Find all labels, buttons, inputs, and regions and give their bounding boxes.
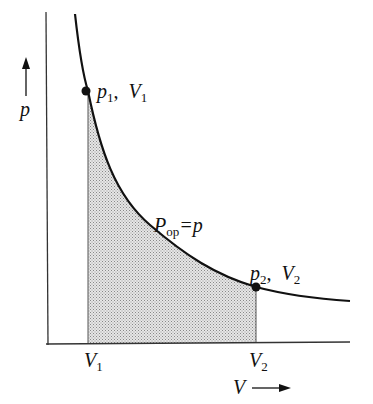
x-tick-v2: V2	[249, 349, 268, 375]
point2-label: p2, V2	[250, 262, 300, 288]
point-1	[82, 87, 91, 96]
curve-label: Pop=p	[154, 214, 203, 240]
x-tick-v1: V1	[84, 349, 103, 375]
y-axis-label: p	[20, 98, 30, 121]
x-axis-label: V	[233, 376, 245, 399]
pv-diagram	[0, 0, 373, 404]
point1-label: p1, V1	[97, 80, 147, 106]
y-axis	[46, 12, 48, 345]
